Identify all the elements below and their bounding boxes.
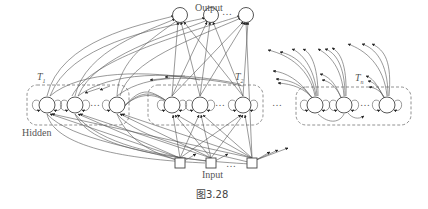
t2-sub: 2 [241,78,244,84]
hidden-node-t1 [67,97,83,113]
figure-caption: 图3.28 [196,186,228,201]
hidden-node-tn [379,97,395,113]
block-t2-label: T2 [235,71,244,84]
input-label: Input [202,169,223,180]
hidden-node-t2 [192,97,208,113]
output-label: Output [195,2,223,13]
input-node [175,158,185,168]
block-t1-label: T1 [37,71,46,84]
hidden-node-t1 [109,97,125,113]
hidden-label: Hidden [22,127,51,138]
t2-ellipsis: … [215,97,225,108]
tn-ellipsis: … [360,97,370,108]
output-node [239,8,254,23]
hidden-node-t1 [39,97,55,113]
input-node [247,158,257,168]
t1-sub: 1 [43,78,46,84]
input-node [206,158,216,168]
t1-ellipsis: … [90,97,100,108]
input-ellipsis: … [226,158,236,169]
block-tn-label: Tn [355,72,364,85]
hidden-node-t2 [164,97,180,113]
hidden-node-t2 [235,97,251,113]
tn-outgoing-connections [268,44,390,121]
hidden-node-tn [336,97,352,113]
input-layer [175,158,257,168]
tn-sub: n [361,79,364,85]
blocks-ellipsis: … [272,97,282,108]
output-node [173,8,188,23]
output-ellipsis: … [222,6,232,17]
hidden-node-tn [307,97,323,113]
feedforward-connections [50,22,288,161]
